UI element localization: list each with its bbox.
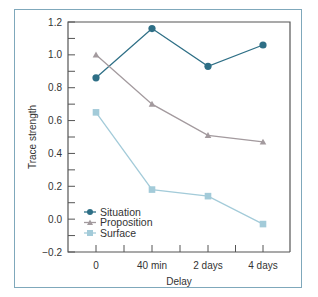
legend-item: Surface bbox=[84, 227, 136, 239]
x-tick-label: 4 days bbox=[248, 260, 277, 271]
y-tick-label: 1.2 bbox=[48, 17, 62, 28]
y-axis-title: Trace strength bbox=[27, 105, 38, 169]
y-tick-label: 0.4 bbox=[48, 148, 62, 159]
x-tick-label: 40 min bbox=[137, 260, 167, 271]
y-tick-label: 0.0 bbox=[48, 214, 62, 225]
series-situation bbox=[92, 25, 266, 81]
x-axis-title: Delay bbox=[166, 276, 192, 287]
x-tick-label: 0 bbox=[93, 260, 99, 271]
y-tick-label: 0.6 bbox=[48, 115, 62, 126]
legend: SituationPropositionSurface bbox=[84, 206, 153, 239]
series-lines bbox=[92, 25, 266, 227]
line-chart: 1.21.00.80.60.40.20.0−0.2040 min2 days4 … bbox=[0, 0, 318, 297]
y-tick-label: 0.8 bbox=[48, 82, 62, 93]
svg-text:Surface: Surface bbox=[100, 227, 136, 239]
axes: 1.21.00.80.60.40.20.0−0.2040 min2 days4 … bbox=[27, 17, 290, 288]
x-tick-label: 2 days bbox=[193, 260, 222, 271]
y-tick-label: 0.2 bbox=[48, 181, 62, 192]
y-tick-label: −0.2 bbox=[42, 247, 62, 258]
y-tick-label: 1.0 bbox=[48, 49, 62, 60]
series-proposition bbox=[93, 52, 267, 145]
